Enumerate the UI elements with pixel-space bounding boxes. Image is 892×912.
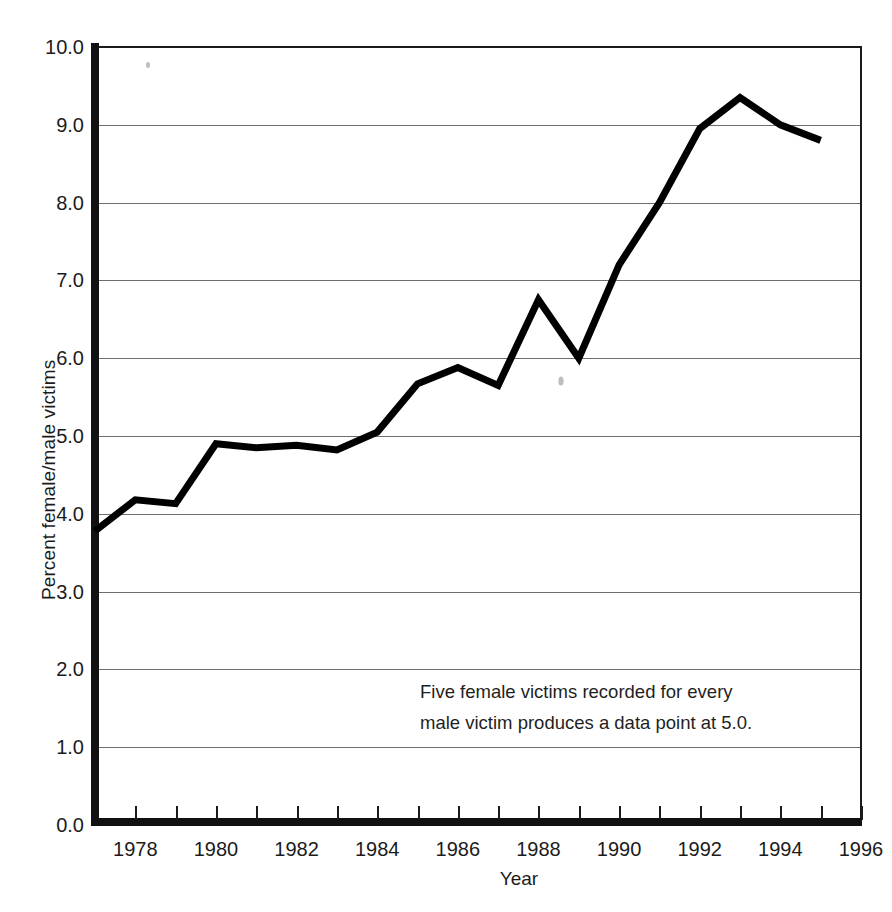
annotation-line-2: male victim produces a data point at 5.0… xyxy=(420,707,820,738)
y-axis-title: Percent female/male victims xyxy=(36,160,62,600)
x-tick-label: 1984 xyxy=(332,838,422,860)
chart-figure: 0.01.02.03.04.05.06.07.08.09.010.0 19781… xyxy=(0,0,892,912)
x-tick-label: 1996 xyxy=(816,838,892,860)
x-tick-label: 1994 xyxy=(735,838,825,860)
x-tick-label: 1982 xyxy=(252,838,342,860)
x-axis-tick-labels: 1978198019821984198619881990199219941996 xyxy=(0,0,892,912)
x-tick-label: 1992 xyxy=(655,838,745,860)
chart-annotation: Five female victims recorded for every m… xyxy=(420,676,820,738)
x-tick-label: 1978 xyxy=(90,838,180,860)
x-tick-label: 1988 xyxy=(493,838,583,860)
x-tick-label: 1990 xyxy=(574,838,664,860)
x-axis-title: Year xyxy=(0,868,892,890)
x-tick-label: 1980 xyxy=(171,838,261,860)
x-axis-title-text: Year xyxy=(500,868,538,890)
annotation-line-1: Five female victims recorded for every xyxy=(420,676,820,707)
x-tick-label: 1986 xyxy=(413,838,503,860)
